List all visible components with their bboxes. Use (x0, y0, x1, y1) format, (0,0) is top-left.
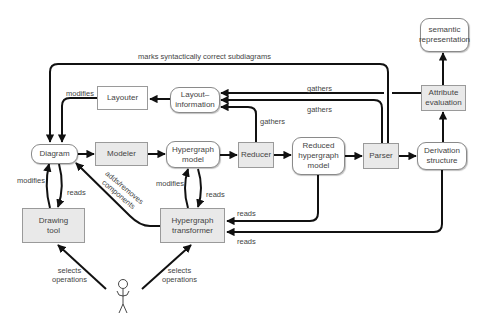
node-reduced-hypergraph-model-label: Reduced hypergraph model (298, 141, 338, 171)
edge-derivation-reads-transformer (227, 170, 442, 232)
label-user-selects-left: selects operations (52, 266, 87, 284)
node-drawing-tool: Drawing tool (22, 208, 85, 243)
node-reducer-label: Reducer (241, 150, 271, 160)
node-diagram-label: Diagram (39, 149, 69, 159)
user-actor-icon (117, 280, 129, 314)
node-layouter: Layouter (97, 86, 148, 110)
edge-layouter-modifies-diagram (62, 98, 97, 142)
node-semantic-representation: semantic representation (420, 18, 469, 52)
label-transformer-modifies: modifies (156, 179, 184, 188)
edge-reducer-gathers-layoutinfo (221, 107, 256, 142)
node-layout-information: Layout– information (170, 87, 220, 113)
label-reads-reduced: reads (237, 209, 256, 218)
node-attribute-evaluation-label: Attribute evaluation (425, 88, 461, 108)
label-layouter-modifies: modifies (66, 89, 94, 98)
node-parser: Parser (363, 143, 399, 169)
edge-transformer-modifies-hypergraphmodel (185, 169, 188, 208)
label-marks-syntactically-correct: marks syntactically correct subdiagrams (138, 52, 271, 61)
edge-hypergraphmodel-reads-transformer (198, 169, 201, 207)
node-reducer: Reducer (238, 142, 274, 168)
node-drawing-tool-label: Drawing tool (39, 216, 68, 236)
node-attribute-evaluation: Attribute evaluation (421, 85, 466, 111)
node-hypergraph-transformer-label: Hypergraph transformer (172, 216, 214, 236)
node-hypergraph-model-label: Hypergraph model (172, 145, 214, 165)
node-modeler: Modeler (95, 142, 148, 166)
node-derivation-structure-label: Derivation structure (424, 146, 460, 166)
node-derivation-structure: Derivation structure (417, 142, 467, 170)
edge-drawingtool-modifies-diagram (47, 164, 50, 208)
label-drawing-reads: reads (67, 188, 86, 197)
node-diagram: Diagram (31, 144, 78, 164)
node-modeler-label: Modeler (107, 149, 136, 159)
label-transformer-reads: reads (206, 190, 225, 199)
label-gathers-parser: gathers (307, 105, 332, 114)
label-drawing-modifies: modifies (17, 176, 45, 185)
edge-diagram-reads-drawingtool (58, 164, 62, 207)
label-gathers-reducer: gathers (260, 117, 285, 126)
node-hypergraph-model: Hypergraph model (166, 141, 220, 168)
label-gathers-attribute: gathers (307, 84, 332, 93)
node-layouter-label: Layouter (107, 93, 138, 103)
label-reads-derivation: reads (237, 237, 256, 246)
node-parser-label: Parser (369, 151, 393, 161)
label-user-selects-right: selects operations (162, 266, 197, 284)
node-hypergraph-transformer: Hypergraph transformer (160, 208, 225, 243)
node-layout-information-label: Layout– information (175, 90, 215, 110)
node-reduced-hypergraph-model: Reduced hypergraph model (292, 137, 345, 175)
node-semantic-representation-label: semantic representation (419, 25, 470, 45)
